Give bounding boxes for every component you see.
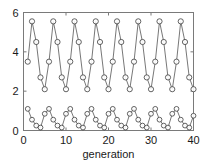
data-point-marker <box>72 19 77 24</box>
data-point-marker <box>30 117 35 122</box>
data-point-marker <box>110 106 115 111</box>
data-point-marker <box>123 125 128 130</box>
y-tick-labels: 0246 <box>12 7 18 137</box>
x-tick-label: 10 <box>60 134 72 146</box>
y-tick-label: 0 <box>12 125 18 137</box>
data-point-marker <box>76 39 81 44</box>
data-point-marker <box>64 111 69 116</box>
data-point-marker <box>102 75 107 80</box>
data-series-lower <box>25 106 196 129</box>
data-point-marker <box>115 117 120 122</box>
data-point-marker <box>68 59 73 64</box>
y-tick-label: 2 <box>12 85 18 97</box>
data-point-marker <box>127 111 132 116</box>
data-point-marker <box>123 75 128 80</box>
data-point-marker <box>38 125 43 130</box>
data-point-marker <box>59 125 64 130</box>
data-point-marker <box>165 75 170 80</box>
data-point-marker <box>46 59 51 64</box>
data-point-marker <box>136 19 141 24</box>
data-point-marker <box>106 87 111 92</box>
data-series-upper <box>25 19 196 92</box>
plot-svg: 0246 010203040 generation <box>0 0 203 167</box>
x-axis-label-text: generation <box>83 148 135 160</box>
data-point-marker <box>178 19 183 24</box>
y-tick-label: 6 <box>12 7 18 19</box>
data-point-marker <box>72 117 77 122</box>
data-point-marker <box>81 125 86 130</box>
data-point-marker <box>170 87 175 92</box>
data-point-marker <box>170 111 175 116</box>
data-point-marker <box>144 75 149 80</box>
data-point-marker <box>38 75 43 80</box>
data-point-marker <box>106 111 111 116</box>
data-point-marker <box>29 19 34 24</box>
data-point-marker <box>97 39 102 44</box>
x-tick-label: 30 <box>145 134 157 146</box>
data-point-marker <box>187 125 192 130</box>
x-tick-label: 20 <box>102 134 114 146</box>
data-point-marker <box>89 59 94 64</box>
data-point-marker <box>89 106 94 111</box>
data-point-marker <box>93 19 98 24</box>
data-point-marker <box>144 125 149 130</box>
data-point-marker <box>153 106 158 111</box>
data-point-marker <box>149 111 154 116</box>
data-point-marker <box>148 87 153 92</box>
x-tick-label: 0 <box>20 134 26 146</box>
data-point-marker <box>161 39 166 44</box>
data-point-marker <box>174 59 179 64</box>
data-point-marker <box>191 113 196 118</box>
data-point-marker <box>93 117 98 122</box>
data-point-marker <box>131 59 136 64</box>
data-point-marker <box>63 87 68 92</box>
data-point-marker <box>51 117 56 122</box>
data-point-marker <box>25 59 30 64</box>
data-point-marker <box>102 125 107 130</box>
x-tick-label: 40 <box>187 134 199 146</box>
x-axis-label: generation <box>83 148 135 160</box>
data-point-marker <box>153 59 158 64</box>
data-point-marker <box>85 87 90 92</box>
data-point-marker <box>59 75 64 80</box>
data-point-marker <box>47 106 52 111</box>
data-point-marker <box>25 106 30 111</box>
data-point-marker <box>110 59 115 64</box>
data-point-marker <box>42 111 47 116</box>
data-point-marker <box>114 19 119 24</box>
data-point-marker <box>42 87 47 92</box>
data-point-marker <box>80 75 85 80</box>
y-tick-label: 4 <box>12 46 18 58</box>
data-point-marker <box>140 39 145 44</box>
data-point-marker <box>166 125 171 130</box>
data-point-marker <box>132 106 137 111</box>
x-tick-labels: 010203040 <box>20 134 199 146</box>
data-point-marker <box>119 39 124 44</box>
chart-figure: 0246 010203040 generation <box>0 0 203 167</box>
data-point-marker <box>34 39 39 44</box>
data-point-marker <box>178 117 183 122</box>
data-point-marker <box>187 75 192 80</box>
data-point-marker <box>157 117 162 122</box>
data-point-marker <box>182 39 187 44</box>
data-point-marker <box>157 19 162 24</box>
data-point-marker <box>136 117 141 122</box>
data-point-marker <box>51 19 56 24</box>
data-point-marker <box>55 39 60 44</box>
data-point-marker <box>85 111 90 116</box>
data-point-marker <box>191 87 196 92</box>
data-point-marker <box>127 87 132 92</box>
data-point-marker <box>174 106 179 111</box>
data-point-marker <box>68 106 73 111</box>
